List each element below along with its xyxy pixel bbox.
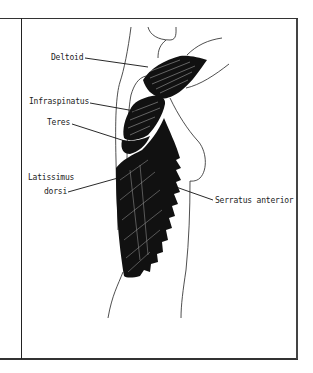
label-teres: Teres — [47, 118, 70, 127]
serratus-leader — [176, 187, 213, 200]
label-dorsi: dorsi — [44, 187, 67, 196]
label-deltoid: Deltoid — [51, 53, 83, 62]
latissimus-leader — [68, 178, 118, 192]
label-serratus-anterior: Serratus anterior — [215, 196, 293, 205]
label-infraspinatus: Infraspinatus — [29, 97, 89, 106]
teres-leader — [72, 124, 128, 142]
deltoid-leader — [85, 58, 148, 67]
label-latissimus: Latissimus — [28, 173, 74, 182]
deltoid-muscle — [143, 56, 207, 99]
document-page: Deltoid Infraspinatus Teres Latissimus d… — [0, 0, 313, 373]
